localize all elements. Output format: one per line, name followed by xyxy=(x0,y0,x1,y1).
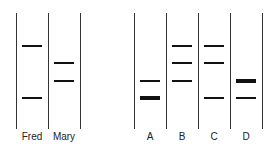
lane-label-fred: Fred xyxy=(16,131,48,142)
lane-label-a: A xyxy=(134,131,166,142)
lane-divider xyxy=(262,13,263,129)
band-c-2 xyxy=(204,62,224,64)
lane-divider xyxy=(230,13,231,129)
band-a-2 xyxy=(140,96,160,100)
band-fred-1 xyxy=(22,45,42,47)
lane-divider xyxy=(166,13,167,129)
lane-label-mary: Mary xyxy=(48,131,80,142)
band-mary-1 xyxy=(54,62,74,64)
band-fred-2 xyxy=(22,97,42,99)
lane-divider xyxy=(80,13,81,129)
band-a-1 xyxy=(140,80,160,82)
band-b-1 xyxy=(172,45,192,47)
lane-label-d: D xyxy=(230,131,262,142)
band-mary-2 xyxy=(54,80,74,82)
band-b-3 xyxy=(172,80,192,82)
lane-label-c: C xyxy=(198,131,230,142)
lane-divider xyxy=(198,13,199,129)
lane-divider xyxy=(48,13,49,129)
band-b-2 xyxy=(172,62,192,64)
lane-label-b: B xyxy=(166,131,198,142)
lane-divider xyxy=(16,13,17,129)
band-c-3 xyxy=(204,97,224,99)
band-c-1 xyxy=(204,45,224,47)
lane-divider xyxy=(134,13,135,129)
band-d-1 xyxy=(236,79,256,83)
band-d-2 xyxy=(236,97,256,99)
